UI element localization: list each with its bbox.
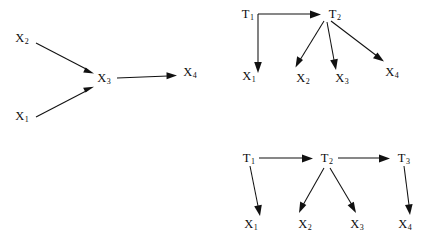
panel-left: X2 X1 X3 X4 <box>15 31 197 124</box>
node-label-t3: T3 <box>398 151 410 166</box>
node-label-x2: X2 <box>298 217 312 232</box>
node-label-x4: X4 <box>385 65 399 80</box>
panel-bottom-right: T1 T2 T3 X1 X2 X3 X4 <box>243 151 413 232</box>
node-label-x4: X4 <box>398 217 412 232</box>
edge-t3-to-x4 <box>404 166 413 215</box>
node-label-x1: X1 <box>15 109 29 124</box>
edge-x2-to-x3 <box>36 43 94 74</box>
edge-t1-to-x1 <box>254 14 262 73</box>
node-label-t1: T1 <box>243 151 255 166</box>
edge-t2-to-x4 <box>331 21 384 62</box>
node-label-x2: X2 <box>15 31 29 46</box>
edge-x3-to-x4 <box>117 72 177 79</box>
node-label-x2: X2 <box>296 71 310 86</box>
edge-t1-to-x1 <box>250 166 262 216</box>
edge-t2-to-x3 <box>327 22 338 70</box>
node-label-t2: T2 <box>329 7 341 22</box>
diagram-canvas: X2 X1 X3 X4 <box>0 0 428 243</box>
edge-t1-to-t2 <box>258 11 321 19</box>
node-label-x4: X4 <box>183 65 197 80</box>
node-label-t1: T1 <box>242 7 254 22</box>
node-label-t2: T2 <box>321 151 333 166</box>
figure-root: X2 X1 X3 X4 <box>0 0 428 243</box>
panel-top-right: T1 T2 X1 X2 X3 X4 <box>242 7 399 86</box>
edge-t1-to-t2 <box>259 155 313 163</box>
node-label-x3: X3 <box>97 71 111 86</box>
edge-t2-to-x2 <box>296 21 325 68</box>
edge-t2-to-t3 <box>338 155 390 163</box>
node-label-x3: X3 <box>350 217 364 232</box>
edge-x1-to-x3 <box>36 87 94 117</box>
node-label-x3: X3 <box>335 71 349 86</box>
node-label-x1: X1 <box>242 69 256 84</box>
node-label-x1: X1 <box>244 217 258 232</box>
edge-t2-to-x2 <box>299 168 324 213</box>
edge-t2-to-x3 <box>330 168 356 213</box>
